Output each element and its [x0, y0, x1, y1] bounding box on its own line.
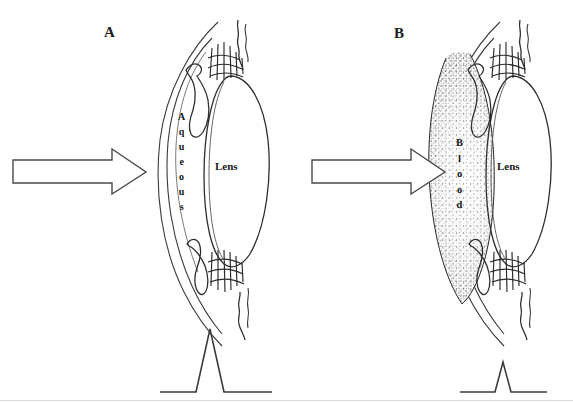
eye-ultrasound-figure: A A q u e o u s Lens [0, 0, 573, 402]
trace-peak-a [160, 329, 272, 392]
trace-peak-b [460, 362, 547, 392]
ultrasound-traces [0, 0, 573, 402]
